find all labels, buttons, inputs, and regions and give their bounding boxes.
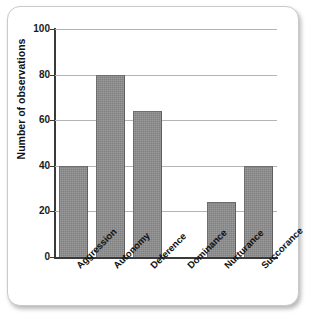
gridline xyxy=(55,75,277,76)
y-axis-tick xyxy=(50,29,54,30)
plot-area xyxy=(55,29,277,257)
y-axis-title: Number of observations xyxy=(15,24,27,174)
bar xyxy=(59,166,89,257)
y-axis-tick-label: 0 xyxy=(10,252,50,262)
y-axis-tick xyxy=(50,211,54,212)
y-axis-tick xyxy=(50,257,54,258)
y-axis-tick xyxy=(50,120,54,121)
y-axis-tick-label: 20 xyxy=(10,206,50,216)
gridline xyxy=(55,120,277,121)
gridline xyxy=(55,29,277,30)
y-axis-tick xyxy=(50,166,54,167)
y-axis-tick xyxy=(50,75,54,76)
chart-card: 020406080100 Number of observations Aggr… xyxy=(7,6,299,306)
